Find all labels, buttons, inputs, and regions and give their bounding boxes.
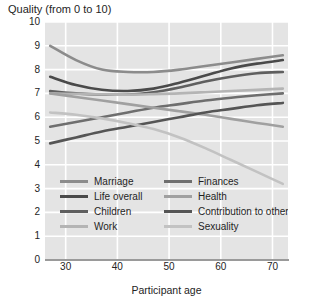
x-tick-label: 60 (201, 262, 241, 272)
legend-item-finances[interactable]: Finances (164, 174, 284, 189)
x-tick-label: 30 (46, 262, 86, 272)
series-line-marriage (50, 46, 283, 72)
y-tick-label: 9 (0, 41, 40, 51)
legend-item-label: Finances (198, 174, 239, 189)
y-tick-label: 1 (0, 231, 40, 241)
legend-swatch-icon (164, 225, 192, 228)
legend-item-work[interactable]: Work (60, 219, 160, 234)
legend-swatch-icon (164, 210, 192, 213)
y-tick-label: 7 (0, 88, 40, 98)
series-line-health (50, 93, 283, 126)
legend-item-marriage[interactable]: Marriage (60, 174, 160, 189)
legend-swatch-icon (60, 225, 88, 228)
y-tick-label: 2 (0, 207, 40, 217)
y-tick-label: 8 (0, 65, 40, 75)
legend-item-label: Sexuality (198, 219, 239, 234)
y-tick-label: 10 (0, 17, 40, 27)
plot-area: MarriageLife overallChildrenWorkFinances… (45, 22, 288, 260)
legend-item-children[interactable]: Children (60, 204, 160, 219)
legend-item-label: Work (94, 219, 117, 234)
legend-item-label: Life overall (94, 189, 142, 204)
legend-item-label: Children (94, 204, 131, 219)
legend-swatch-icon (164, 180, 192, 183)
x-tick-label: 40 (97, 262, 137, 272)
legend-item-health[interactable]: Health (164, 189, 284, 204)
x-tick-label: 50 (149, 262, 189, 272)
chart-legend: MarriageLife overallChildrenWorkFinances… (60, 174, 282, 234)
legend-swatch-icon (164, 195, 192, 198)
legend-item-label: Contribution to others (198, 204, 288, 219)
y-tick-label: 5 (0, 136, 40, 146)
x-tick-label: 70 (252, 262, 292, 272)
legend-swatch-icon (60, 195, 88, 198)
y-tick-label: 0 (0, 255, 40, 265)
x-axis-title: Participant age (45, 284, 288, 296)
chart-title: Quality (from 0 to 10) (8, 3, 111, 16)
y-tick-label: 6 (0, 112, 40, 122)
y-tick-label: 3 (0, 184, 40, 194)
chart-figure: Quality (from 0 to 10) 012345678910 Marr… (0, 0, 310, 307)
legend-item-label: Marriage (94, 174, 133, 189)
legend-swatch-icon (60, 210, 88, 213)
legend-item-contribution-to-others[interactable]: Contribution to others (164, 204, 284, 219)
legend-item-life-overall[interactable]: Life overall (60, 189, 160, 204)
legend-swatch-icon (60, 180, 88, 183)
legend-item-sexuality[interactable]: Sexuality (164, 219, 284, 234)
legend-item-label: Health (198, 189, 227, 204)
y-tick-label: 4 (0, 160, 40, 170)
